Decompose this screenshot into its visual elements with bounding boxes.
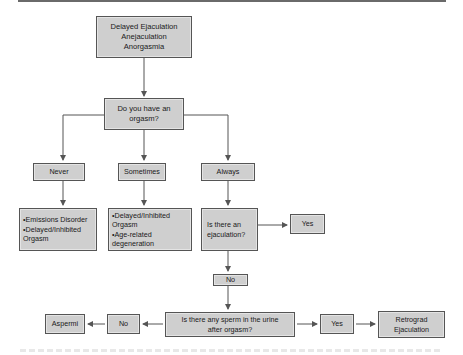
sometimes-result-box: •Delayed/Inhibited Orgasm •Age-related d… bbox=[108, 208, 192, 251]
never-result-line-1: •Emissions Disorder bbox=[23, 215, 87, 224]
never-result-line-3: Orgasm bbox=[23, 234, 87, 243]
sperm-question-box: Is there any sperm in the urine after or… bbox=[165, 312, 295, 337]
start-line-3: Anorgasmia bbox=[110, 42, 177, 52]
start-node-box: Delayed Ejaculation Anejaculation Anorga… bbox=[96, 16, 192, 58]
never-result-line-2: •Delayed/Inhibited bbox=[23, 225, 87, 234]
start-line-2: Anejaculation bbox=[110, 32, 177, 42]
sperm-question-line-2: after orgasm? bbox=[181, 325, 278, 334]
ejaculation-question-line-1: Is there an bbox=[207, 220, 245, 229]
sometimes-result-line-1: •Delayed/Inhibited bbox=[112, 211, 170, 220]
sperm-no-box: No bbox=[107, 314, 140, 334]
orgasm-question-line-1: Do you have an bbox=[117, 104, 170, 114]
sometimes-label: Sometimes bbox=[124, 167, 160, 176]
sperm-question-line-1: Is there any sperm in the urine bbox=[181, 315, 278, 324]
retrograde-line-2: Ejaculation bbox=[394, 325, 429, 334]
aspermia-box: Aspermi bbox=[45, 314, 85, 334]
retrograde-box: Retrograd Ejaculation bbox=[378, 311, 445, 338]
sperm-yes-box: Yes bbox=[320, 314, 354, 334]
never-label: Never bbox=[49, 167, 68, 176]
sometimes-result-line-2: Orgasm bbox=[112, 220, 170, 229]
aspermia-label: Aspermi bbox=[52, 319, 78, 328]
ejaculation-question-line-2: ejaculation? bbox=[207, 230, 245, 239]
orgasm-question-line-2: orgasm? bbox=[117, 114, 170, 124]
sometimes-result-line-3: •Age-related bbox=[112, 230, 170, 239]
ejaculation-no-label: No bbox=[226, 275, 235, 284]
never-result-box: •Emissions Disorder •Delayed/Inhibited O… bbox=[19, 208, 97, 251]
retrograde-line-1: Retrograd bbox=[394, 315, 429, 324]
always-box: Always bbox=[201, 163, 255, 181]
ejaculation-no-box: No bbox=[213, 274, 248, 286]
faded-caption-text bbox=[20, 349, 440, 352]
sometimes-box: Sometimes bbox=[118, 163, 166, 181]
sometimes-result-line-4: degeneration bbox=[112, 239, 170, 248]
ejaculation-yes-label: Yes bbox=[302, 219, 314, 228]
ejaculation-question-box: Is there an ejaculation? bbox=[201, 208, 258, 251]
start-line-1: Delayed Ejaculation bbox=[110, 22, 177, 32]
sperm-yes-label: Yes bbox=[331, 319, 343, 328]
ejaculation-yes-box: Yes bbox=[290, 214, 325, 234]
always-label: Always bbox=[217, 167, 240, 176]
orgasm-question-box: Do you have an orgasm? bbox=[104, 98, 184, 130]
never-box: Never bbox=[33, 163, 85, 181]
sperm-no-label: No bbox=[119, 319, 128, 328]
